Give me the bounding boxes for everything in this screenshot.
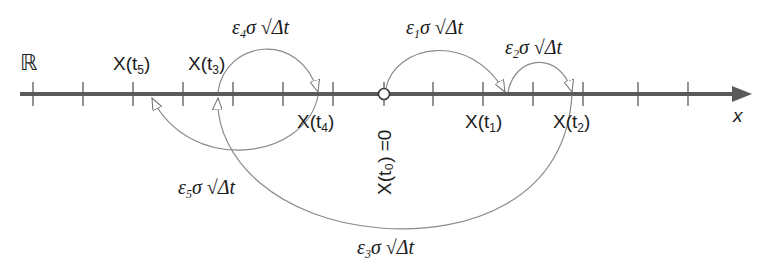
reals-symbol: ℝ [20, 50, 38, 75]
step-arc-1 [386, 51, 505, 92]
point-label-t1: X(t1) [465, 111, 502, 135]
axis-label: x [732, 105, 744, 126]
point-label-t3: X(t3) [188, 53, 225, 77]
step-arc-5 [152, 96, 318, 150]
origin-point [379, 82, 390, 106]
step-label-1: ε1σ √Δt [406, 16, 463, 41]
point-label-t2: X(t2) [553, 111, 590, 135]
step-label-2: ε2σ √Δt [505, 36, 562, 61]
step-label-3: ε3σ √Δt [357, 236, 414, 261]
step-label-5: ε5σ √Δt [178, 176, 235, 201]
axis-arrow-icon [732, 86, 752, 102]
point-label-t4: X(t4) [297, 111, 334, 135]
step-label-4: ε4σ √Δt [232, 16, 289, 41]
point-label-t5: X(t5) [113, 53, 150, 77]
random-walk-diagram: ℝ x X(t5) X(t3) X(t4) X(t1) X(t2) X(t₀) … [0, 0, 766, 280]
origin-label: X(t₀) =0 [374, 130, 395, 195]
step-arc-2 [508, 62, 572, 92]
